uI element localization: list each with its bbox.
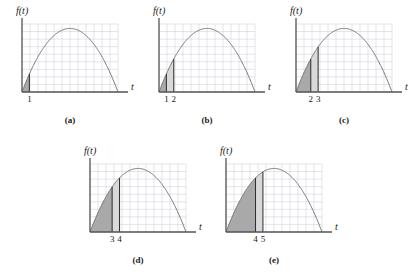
tick-label-b-2: 2 — [169, 94, 179, 104]
y-axis-label-c: f(t) — [290, 5, 302, 16]
light-shaded-region-b — [166, 59, 173, 92]
grid-a — [22, 24, 118, 92]
plot-area-e — [212, 144, 342, 256]
panel-caption-a: (a) — [56, 115, 84, 125]
x-axis-label-a: t — [131, 81, 134, 92]
panel-c: f(t)t23(c) — [282, 4, 411, 116]
x-axis-label-b: t — [268, 81, 271, 92]
panel-b: f(t)t12(b) — [145, 4, 275, 116]
y-axis-label-a: f(t) — [16, 5, 28, 16]
tick-label-c-3: 3 — [313, 94, 323, 104]
dark-shaded-region-e — [226, 178, 256, 232]
x-axis-label-e: t — [335, 221, 338, 232]
light-shaded-region-e — [256, 172, 263, 232]
y-axis-label-d: f(t) — [84, 145, 96, 156]
panel-caption-e: (e) — [260, 255, 288, 265]
panel-d: f(t)t34(d) — [76, 144, 206, 256]
panel-a: f(t)t1(a) — [8, 4, 138, 116]
panel-caption-b: (b) — [193, 115, 221, 125]
panel-caption-d: (d) — [124, 255, 152, 265]
tick-label-a-1: 1 — [24, 94, 34, 104]
plot-area-c — [282, 4, 411, 116]
plot-area-d — [76, 144, 206, 256]
tick-label-e-5: 5 — [258, 234, 268, 244]
y-axis-label-e: f(t) — [220, 145, 232, 156]
panel-caption-c: (c) — [330, 115, 358, 125]
x-axis-label-d: t — [199, 221, 202, 232]
panel-e: f(t)t45(e) — [212, 144, 342, 256]
tick-label-d-4: 4 — [115, 234, 125, 244]
x-axis-label-c: t — [405, 81, 408, 92]
y-axis-label-b: f(t) — [153, 5, 165, 16]
